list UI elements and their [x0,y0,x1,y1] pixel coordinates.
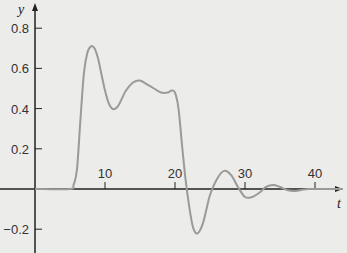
x-axis-label: t [337,196,342,211]
y-axis-arrow-icon [32,3,38,11]
y-tick-label: 0.4 [11,102,29,117]
x-tick-label: 30 [238,166,252,181]
y-tick-label: −0.2 [3,222,29,237]
x-tick-label: 10 [98,166,112,181]
x-tick-label: 40 [308,166,322,181]
axes [0,3,343,253]
y-tick-label: 0.6 [11,61,29,76]
y-tick-label: 0.8 [11,21,29,36]
x-tick-label: 20 [168,166,182,181]
data-line [35,46,343,234]
y-tick-label: 0.2 [11,142,29,157]
y-axis-label: y [16,2,25,17]
ticks: 10203040−0.20.20.40.60.8 [3,21,322,237]
line-chart: 10203040−0.20.20.40.60.8 y t [0,0,347,253]
